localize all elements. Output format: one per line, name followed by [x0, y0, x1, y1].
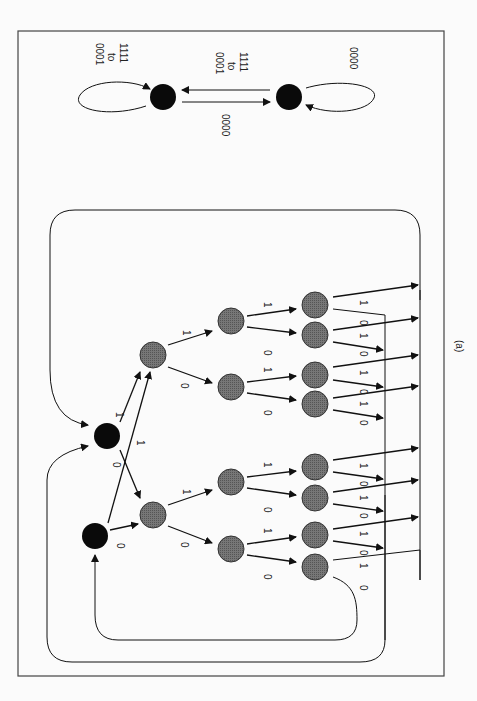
label-l3-14: 1 [358, 563, 369, 569]
level3-node-5 [302, 454, 328, 480]
label-l1u-one: 1 [181, 330, 192, 336]
label-l2-7: 0 [262, 574, 273, 580]
self-loop-right [306, 83, 375, 111]
loop-right-label: 0000 [348, 47, 359, 70]
edge-top-label-3: 1111 [238, 52, 249, 72]
label-l2-3: 0 [262, 410, 273, 416]
loop-left-label-3: 1111 [118, 43, 129, 63]
edge-l1l-0 [168, 526, 212, 543]
label-b-one: 1 [135, 440, 146, 446]
label-l3-6: 1 [358, 401, 369, 407]
edge-l1u-0 [168, 367, 212, 383]
level2-node-3 [218, 469, 244, 495]
state-diagram: 0001 to 1111 0001 to 1111 0000 0000 [0, 0, 477, 701]
stub-bottom [333, 550, 420, 580]
level3-node-3 [302, 362, 328, 388]
figure-caption: (a) [454, 340, 465, 352]
loop-left-label-1: 0001 [94, 43, 105, 66]
edge-l2-4a [247, 537, 296, 544]
level3-node-6 [302, 485, 328, 511]
label-b-zero: 0 [115, 543, 126, 549]
label-l3-1: 0 [358, 320, 369, 326]
level3-node-7 [302, 522, 328, 548]
edge-l2-1b [247, 327, 296, 333]
loop-left-label-2: to [106, 53, 117, 62]
edge-l2-4b [247, 555, 296, 562]
state-machine: 0001 to 1111 0001 to 1111 0000 0000 [78, 43, 374, 137]
root-node-b [82, 523, 108, 549]
label-l1l-zero: 0 [179, 542, 190, 548]
label-l2-4: 1 [262, 462, 273, 468]
label-l3-8: 1 [358, 463, 369, 469]
edge-bottom-label: 0000 [220, 114, 231, 137]
label-l3-9: 0 [358, 481, 369, 487]
edge-a-0 [120, 450, 140, 498]
label-l3-13: 0 [358, 550, 369, 556]
edge-top-label-2: to [226, 62, 237, 71]
edge-l2-1a [247, 309, 296, 316]
label-l2-5: 0 [262, 507, 273, 513]
edge-top-label-1: 0001 [214, 52, 225, 75]
label-l3-0: 1 [358, 300, 369, 306]
label-l2-0: 1 [262, 302, 273, 308]
level3-node-4 [302, 391, 328, 417]
label-l3-4: 1 [358, 370, 369, 376]
edge-l2-2b [247, 393, 296, 400]
label-l3-11: 0 [358, 513, 369, 519]
root-node-a [94, 423, 120, 449]
state-node-left [150, 84, 176, 110]
level1-node-lower [140, 502, 166, 528]
label-l2-1: 0 [262, 350, 273, 356]
edge-l2-3b [247, 488, 296, 495]
label-l3-15: 0 [358, 585, 369, 591]
label-l1l-one: 1 [181, 489, 192, 495]
label-l3-10: 1 [358, 495, 369, 501]
edge-l2-3a [247, 471, 296, 477]
level3-node-2 [302, 322, 328, 348]
level2-node-4 [218, 536, 244, 562]
edge-l2-2a [247, 376, 296, 382]
label-a-one: 1 [114, 412, 125, 418]
label-l1u-zero: 0 [179, 383, 190, 389]
level3-node-8 [302, 554, 328, 580]
level3-node-1 [302, 292, 328, 318]
edge-b-1 [108, 372, 150, 523]
label-l3-7: 0 [358, 420, 369, 426]
edge-b-0 [110, 524, 138, 530]
stub-top [333, 309, 385, 315]
level2-node-1 [218, 308, 244, 334]
level1-node-upper [140, 342, 166, 368]
label-l3-2: 1 [358, 333, 369, 339]
level3-nodes [302, 292, 328, 580]
label-l3-3: 0 [358, 351, 369, 357]
level2-node-2 [218, 374, 244, 400]
label-l3-5: 0 [358, 389, 369, 395]
label-a-zero: 0 [111, 462, 122, 468]
self-loop-left [78, 82, 150, 112]
state-node-right [276, 84, 302, 110]
output-edges [333, 285, 418, 548]
label-l2-6: 1 [262, 528, 273, 534]
label-l3-12: 1 [358, 531, 369, 537]
label-l2-2: 1 [262, 367, 273, 373]
tree-diagram: 1 0 1 0 1 0 1 0 1 0 1 0 1 0 1 0 1 0 1 0 … [47, 210, 420, 662]
